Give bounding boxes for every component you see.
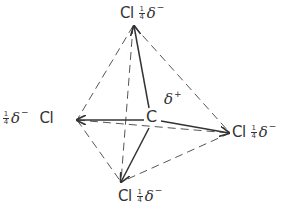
bond-arrow-top	[134, 26, 149, 108]
atom-symbol: Cl	[120, 6, 134, 21]
fraction: 1 4	[3, 111, 9, 126]
edge-top-left	[77, 26, 133, 120]
central-partial-charge: δ+	[164, 90, 182, 108]
edge-top-bottom	[121, 26, 133, 182]
bond-arrow-bottom	[121, 128, 149, 182]
atom-symbol: Cl	[40, 111, 54, 126]
atom-symbol: Cl	[118, 189, 132, 204]
atom-symbol: Cl	[232, 125, 246, 140]
central-atom: C	[146, 109, 157, 125]
fraction: 1 4	[251, 125, 257, 140]
bond-arrows	[77, 26, 229, 182]
bond-arrow-right	[161, 121, 229, 133]
edge-left-bottom	[77, 120, 121, 182]
ligand-label-right: Cl 1 4 δ−	[232, 125, 276, 140]
fraction: 1 4	[139, 6, 145, 21]
fraction: 1 4	[137, 189, 143, 204]
partial-charge: 1 4 δ−	[3, 111, 29, 126]
edge-right-bottom	[121, 133, 230, 182]
ligand-label-left: 1 4 δ− Cl	[3, 111, 53, 126]
tetrahedron-edges	[77, 26, 230, 182]
partial-charge: 1 4 δ−	[251, 125, 277, 140]
ligand-label-bottom: Cl 1 4 δ−	[118, 189, 162, 204]
ligand-label-top: Cl 1 4 δ−	[120, 6, 164, 21]
partial-charge: 1 4 δ−	[139, 6, 165, 21]
partial-charge: 1 4 δ−	[137, 189, 163, 204]
